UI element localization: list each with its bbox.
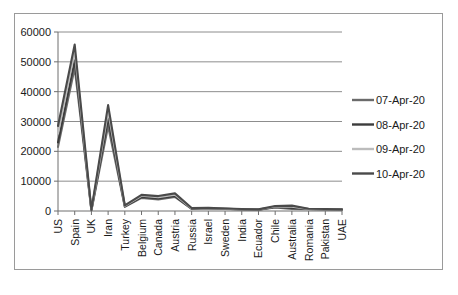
y-tick-label: 40000 — [20, 86, 51, 98]
y-axis-labels: 0100002000030000400005000060000 — [20, 26, 51, 217]
series-line-10-Apr-20 — [58, 45, 342, 210]
y-tick-label: 20000 — [20, 145, 51, 157]
series-line-08-Apr-20 — [58, 60, 342, 210]
x-category-label: Russia — [186, 219, 198, 251]
legend-label-10-Apr-20: 10-Apr-20 — [376, 168, 425, 180]
x-axis-tickmarks — [58, 211, 342, 215]
x-category-label: Ecuador — [252, 218, 264, 258]
x-category-label: Belgium — [136, 219, 148, 257]
x-axis-category-labels: USSpainUKIranTurkeyBelgiumCanadaAustriaR… — [52, 218, 348, 261]
x-category-label: Pakistan — [319, 219, 331, 259]
x-category-label: UK — [85, 219, 97, 234]
y-axis-tickmarks — [54, 32, 58, 211]
x-category-label: Romania — [303, 219, 315, 261]
y-tick-label: 60000 — [20, 26, 51, 38]
x-category-label: Sweden — [219, 219, 231, 257]
chart-legend: 07-Apr-2008-Apr-2009-Apr-2010-Apr-20 — [352, 94, 425, 180]
chart-figure: 0100002000030000400005000060000 USSpainU… — [0, 0, 458, 295]
series-line-07-Apr-20 — [58, 68, 342, 211]
y-tick-label: 30000 — [20, 116, 51, 128]
x-category-label: Turkey — [119, 218, 131, 250]
legend-label-08-Apr-20: 08-Apr-20 — [376, 119, 425, 131]
x-category-label: US — [52, 219, 64, 234]
x-category-label: Iran — [102, 219, 114, 237]
x-category-label: Spain — [69, 219, 81, 246]
x-category-label: Chile — [269, 219, 281, 243]
x-category-label: Austria — [169, 219, 181, 252]
x-category-label: Canada — [152, 219, 164, 256]
y-tick-label: 10000 — [20, 175, 51, 187]
chart-frame: 0100002000030000400005000060000 USSpainU… — [14, 13, 443, 270]
y-tick-label: 0 — [45, 205, 51, 217]
data-series-group — [58, 45, 342, 211]
series-line-09-Apr-20 — [58, 51, 342, 210]
line-chart-svg: 0100002000030000400005000060000 USSpainU… — [15, 14, 442, 269]
legend-label-09-Apr-20: 09-Apr-20 — [376, 143, 425, 155]
legend-label-07-Apr-20: 07-Apr-20 — [376, 94, 425, 106]
x-category-label: Israel — [202, 219, 214, 245]
y-tick-label: 50000 — [20, 56, 51, 68]
x-category-label: UAE — [336, 219, 348, 241]
x-category-label: Australia — [286, 219, 298, 260]
x-category-label: India — [236, 219, 248, 242]
